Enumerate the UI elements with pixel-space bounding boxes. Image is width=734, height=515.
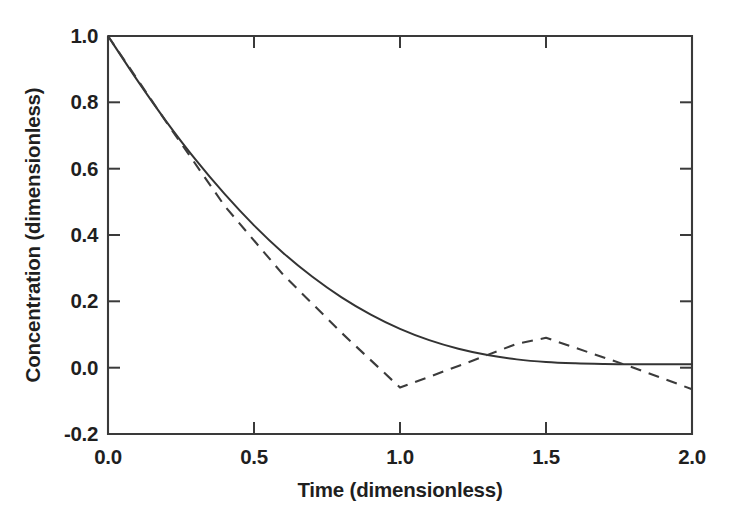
y-tick-label-2: 0.6 xyxy=(70,157,98,180)
y-tick-label-3: 0.4 xyxy=(70,223,98,246)
y-tick-label-4: 0.2 xyxy=(70,289,98,312)
y-tick-label-6: -0.2 xyxy=(64,422,98,445)
x-tick-label-3: 1.5 xyxy=(532,445,560,468)
x-tick-label-4: 2.0 xyxy=(678,445,706,468)
line-chart-svg: 1.0 0.8 0.6 0.4 0.2 0.0 -0.2 0.0 0.5 1.0… xyxy=(0,0,734,515)
x-tick-label-1: 0.5 xyxy=(240,445,268,468)
y-tick-label-1: 0.8 xyxy=(70,90,98,113)
chart-background xyxy=(0,0,734,515)
x-axis-title: Time (dimensionless) xyxy=(297,478,502,501)
y-tick-label-0: 1.0 xyxy=(70,24,98,47)
y-tick-label-5: 0.0 xyxy=(70,356,98,379)
x-tick-label-2: 1.0 xyxy=(386,445,414,468)
y-axis-title: Concentration (dimensionless) xyxy=(21,88,44,383)
chart-figure: 1.0 0.8 0.6 0.4 0.2 0.0 -0.2 0.0 0.5 1.0… xyxy=(0,0,734,515)
x-tick-label-0: 0.0 xyxy=(94,445,122,468)
